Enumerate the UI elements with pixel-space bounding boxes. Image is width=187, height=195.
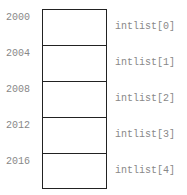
memory-cell-3 xyxy=(43,117,106,154)
address-label: 2008 xyxy=(6,84,30,95)
memory-cell-2 xyxy=(43,81,106,118)
memory-cell-4 xyxy=(43,153,106,190)
address-label: 2000 xyxy=(6,12,30,23)
memory-cell-0 xyxy=(43,10,106,46)
address-label: 2004 xyxy=(6,48,30,59)
address-label: 2016 xyxy=(6,156,30,167)
memory-array-box xyxy=(42,9,107,189)
element-label: intlist[2] xyxy=(115,93,175,104)
element-label: intlist[0] xyxy=(115,21,175,32)
address-label: 2012 xyxy=(6,120,30,131)
element-label: intlist[4] xyxy=(115,165,175,176)
memory-cell-1 xyxy=(43,45,106,82)
element-label: intlist[1] xyxy=(115,57,175,68)
element-label: intlist[3] xyxy=(115,129,175,140)
